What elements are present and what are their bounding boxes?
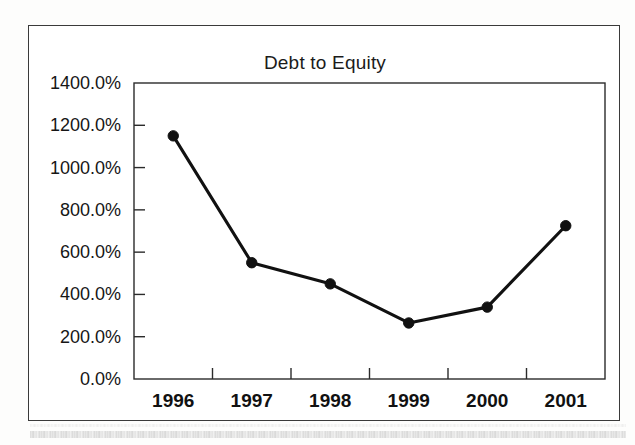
x-axis-tick-label: 2000 (466, 390, 508, 411)
data-point-marker (325, 279, 335, 289)
y-axis-tick-labels: 1400.0%1200.0%1000.0%800.0%600.0%400.0%2… (50, 73, 121, 389)
x-axis-tick-label: 2001 (545, 390, 588, 411)
x-axis-tick-label: 1998 (309, 390, 351, 411)
x-axis-tick-labels: 199619971998199920002001 (152, 390, 587, 411)
y-axis-tick-label: 200.0% (60, 327, 121, 347)
x-axis-tick-label: 1997 (231, 390, 273, 411)
scan-artifact-line (30, 424, 626, 427)
y-axis-tick-label: 1000.0% (50, 158, 121, 178)
scanned-page: Debt to Equity 1400.0%1200.0%1000.0%800.… (0, 0, 635, 445)
scan-artifact-band (30, 431, 626, 438)
y-axis-tick-label: 1200.0% (50, 115, 121, 135)
y-axis-tick-label: 600.0% (60, 242, 121, 262)
y-axis-tick-label: 400.0% (60, 284, 121, 304)
data-point-marker (168, 131, 178, 141)
chart-frame: Debt to Equity 1400.0%1200.0%1000.0%800.… (28, 25, 620, 421)
y-axis-tick-label: 0.0% (80, 369, 121, 389)
y-axis-tick-label: 800.0% (60, 200, 121, 220)
data-point-marker (561, 221, 571, 231)
x-axis-tick-label: 1999 (388, 390, 430, 411)
y-axis-tick-label: 1400.0% (50, 73, 121, 93)
data-point-marker (404, 318, 414, 328)
x-axis-tick-label: 1996 (152, 390, 194, 411)
data-point-marker (247, 258, 257, 268)
line-chart-plot: 1400.0%1200.0%1000.0%800.0%600.0%400.0%2… (29, 26, 621, 422)
plot-area-border (134, 83, 605, 379)
data-point-marker (482, 302, 492, 312)
